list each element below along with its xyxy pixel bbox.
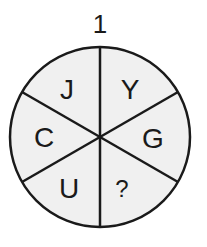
sector-label-bottom-right: ?	[115, 175, 128, 202]
letter-wheel-puzzle: 1 J Y G ? U C	[0, 0, 207, 247]
sector-label-right: G	[142, 123, 164, 154]
sector-label-left: C	[34, 122, 54, 153]
sector-label-top-right: Y	[121, 74, 140, 105]
sector-label-top-left: J	[60, 74, 74, 105]
puzzle-number: 1	[93, 9, 107, 39]
sector-label-bottom-left: U	[59, 173, 79, 204]
